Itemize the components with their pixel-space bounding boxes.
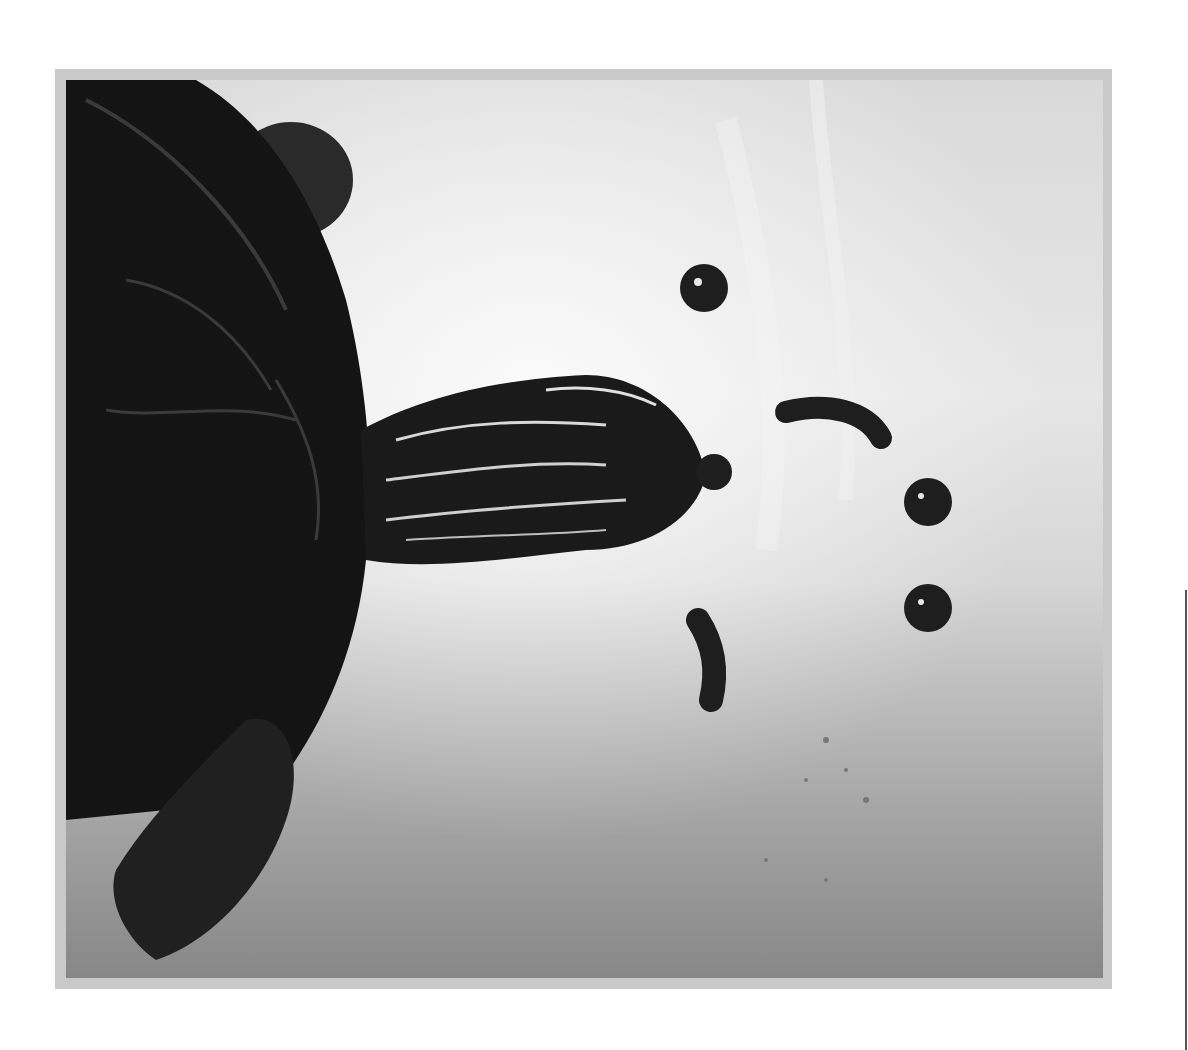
page-edge-line: [1185, 590, 1187, 1050]
turtle-photo: [66, 80, 1103, 978]
